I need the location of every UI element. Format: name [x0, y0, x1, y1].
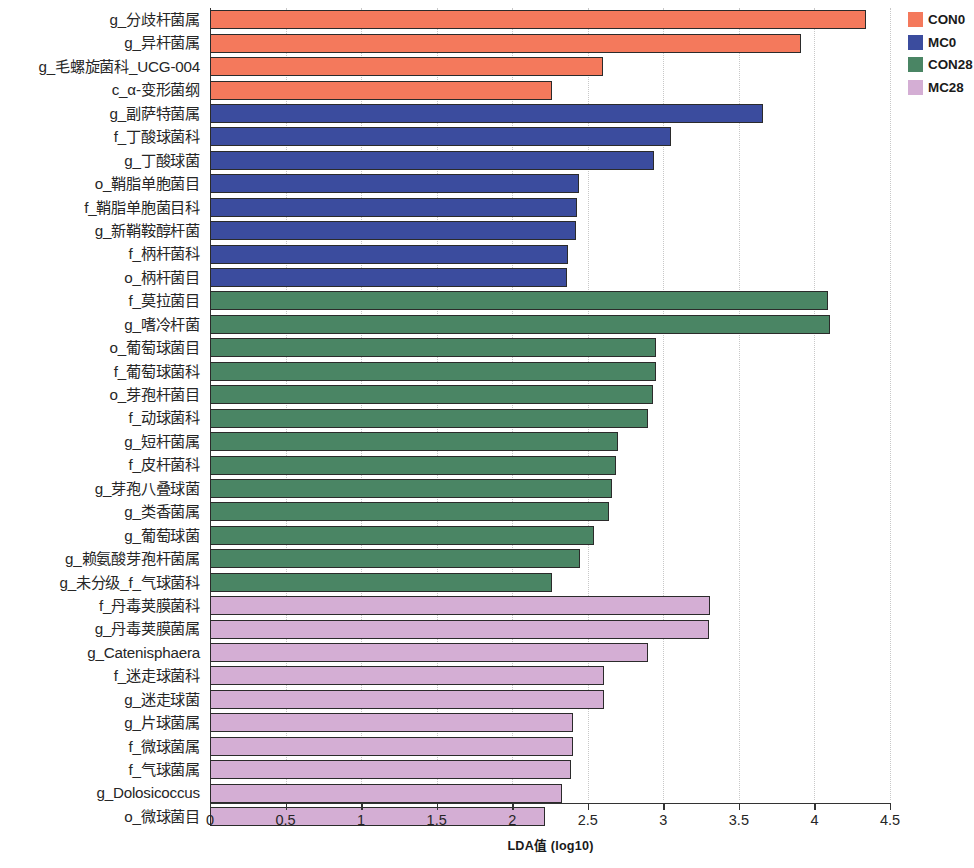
bar-row: [210, 172, 890, 195]
category-label: g_赖氨酸芽孢杆菌属: [0, 547, 205, 570]
bar[interactable]: [210, 432, 618, 451]
category-label: g_分歧杆菌属: [0, 8, 205, 31]
x-axis-line: [210, 803, 891, 804]
bar-row: [210, 594, 890, 617]
bar[interactable]: [210, 502, 609, 521]
bar-row: [210, 313, 890, 336]
legend-swatch-icon: [908, 80, 923, 95]
bar-row: [210, 406, 890, 429]
bar[interactable]: [210, 268, 567, 287]
bar[interactable]: [210, 690, 604, 709]
bar-row: [210, 125, 890, 148]
bar-row: [210, 31, 890, 54]
category-label: o_葡萄球菌目: [0, 336, 205, 359]
bar[interactable]: [210, 737, 573, 756]
bar[interactable]: [210, 315, 830, 334]
bar[interactable]: [210, 245, 568, 264]
bar-row: [210, 196, 890, 219]
legend-label: MC28: [928, 80, 964, 95]
legend-label: CON0: [928, 12, 965, 27]
category-label: g_Catenisphaera: [0, 641, 205, 664]
bar[interactable]: [210, 456, 616, 475]
category-label: g_Dolosicoccus: [0, 781, 205, 804]
bar[interactable]: [210, 784, 562, 803]
bar[interactable]: [210, 104, 763, 123]
bar[interactable]: [210, 573, 552, 592]
bar-row: [210, 242, 890, 265]
bar[interactable]: [210, 174, 579, 193]
bar-row: [210, 383, 890, 406]
legend-item-mc0[interactable]: MC0: [908, 32, 974, 53]
bar[interactable]: [210, 291, 828, 310]
bar-row: [210, 758, 890, 781]
legend: CON0MC0CON28MC28: [908, 9, 974, 99]
category-label: g_新鞘鞍醇杆菌: [0, 219, 205, 242]
bar-row: [210, 617, 890, 640]
x-tick-label: 4.5: [880, 812, 900, 828]
legend-swatch-icon: [908, 12, 923, 27]
category-label: f_丹毒荚膜菌科: [0, 594, 205, 617]
bar-row: [210, 500, 890, 523]
bar[interactable]: [210, 479, 612, 498]
bar-row: [210, 219, 890, 242]
bar[interactable]: [210, 221, 576, 240]
category-label: o_鞘脂单胞菌目: [0, 172, 205, 195]
category-label: f_鞘脂单胞菌目科: [0, 196, 205, 219]
category-label-column: g_分歧杆菌属g_异杆菌属g_毛螺旋菌科_UCG-004c_α-变形菌纲g_副萨…: [0, 8, 205, 828]
bar[interactable]: [210, 198, 577, 217]
x-tick-mark: [739, 803, 740, 810]
x-tick-label: 4: [810, 812, 818, 828]
category-label: g_葡萄球菌: [0, 524, 205, 547]
bar[interactable]: [210, 10, 866, 29]
category-label: c_α-变形菌纲: [0, 78, 205, 101]
bar[interactable]: [210, 409, 648, 428]
category-label: g_未分级_f_气球菌科: [0, 571, 205, 594]
x-axis-title: LDA值 (log10): [210, 835, 891, 854]
category-label: f_柄杆菌科: [0, 242, 205, 265]
bar[interactable]: [210, 385, 653, 404]
x-tick-mark: [512, 803, 513, 810]
category-label: f_气球菌属: [0, 758, 205, 781]
category-label: g_丹毒荚膜菌属: [0, 617, 205, 640]
bar[interactable]: [210, 526, 594, 545]
bar[interactable]: [210, 549, 580, 568]
bar[interactable]: [210, 57, 603, 76]
bar[interactable]: [210, 34, 801, 53]
x-tick-label: 0.5: [275, 812, 295, 828]
category-label: g_芽孢八叠球菌: [0, 477, 205, 500]
legend-item-con28[interactable]: CON28: [908, 54, 974, 75]
bar[interactable]: [210, 713, 573, 732]
bar[interactable]: [210, 666, 604, 685]
bar[interactable]: [210, 620, 709, 639]
bar[interactable]: [210, 760, 571, 779]
x-tick-mark: [588, 803, 589, 810]
bar[interactable]: [210, 127, 671, 146]
bar-series: [210, 8, 890, 828]
x-tick-mark: [663, 803, 664, 810]
bar-row: [210, 641, 890, 664]
bar[interactable]: [210, 81, 552, 100]
bar-row: [210, 524, 890, 547]
bar-row: [210, 453, 890, 476]
legend-item-con0[interactable]: CON0: [908, 9, 974, 30]
bar[interactable]: [210, 151, 654, 170]
bar[interactable]: [210, 596, 710, 615]
category-label: g_类香菌属: [0, 500, 205, 523]
category-label: f_皮杆菌科: [0, 453, 205, 476]
bar-row: [210, 571, 890, 594]
category-label: o_微球菌目: [0, 805, 205, 828]
bar[interactable]: [210, 362, 656, 381]
bar[interactable]: [210, 643, 648, 662]
bar-row: [210, 688, 890, 711]
bar[interactable]: [210, 338, 656, 357]
category-label: g_异杆菌属: [0, 31, 205, 54]
category-label: f_动球菌科: [0, 406, 205, 429]
category-label: o_芽孢杆菌目: [0, 383, 205, 406]
x-tick-mark: [286, 803, 287, 810]
legend-item-mc28[interactable]: MC28: [908, 77, 974, 98]
bar-row: [210, 266, 890, 289]
bar-row: [210, 547, 890, 570]
x-tick-label: 2: [508, 812, 516, 828]
category-label: o_柄杆菌目: [0, 266, 205, 289]
category-label: g_副萨特菌属: [0, 102, 205, 125]
